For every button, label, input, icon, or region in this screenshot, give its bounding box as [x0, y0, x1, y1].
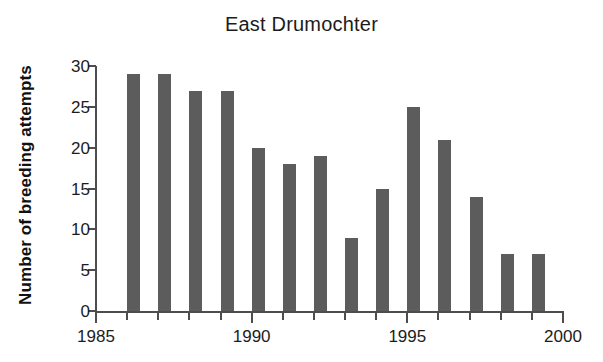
bar: [252, 148, 265, 311]
x-tick-mark-minor: [500, 313, 502, 320]
x-axis-line: [95, 311, 564, 313]
bar: [189, 91, 202, 312]
x-tick-label: 2000: [544, 327, 582, 347]
plot-area: 051015202530 1985199019952000: [96, 66, 563, 311]
x-tick-mark-major: [95, 313, 97, 323]
x-tick-mark-minor: [531, 313, 533, 320]
chart-title: East Drumochter: [0, 13, 603, 36]
x-tick-mark-minor: [188, 313, 190, 320]
x-tick-label: 1985: [77, 327, 115, 347]
y-tick-label: 30: [71, 57, 90, 77]
x-tick-mark-minor: [469, 313, 471, 320]
bar: [532, 254, 545, 311]
bar: [438, 140, 451, 312]
y-tick-label: 5: [81, 261, 90, 281]
y-tick-label: 25: [71, 98, 90, 118]
x-tick-label: 1995: [388, 327, 426, 347]
y-tick-label: 15: [71, 180, 90, 200]
bar: [314, 156, 327, 311]
x-tick-mark-major: [562, 313, 564, 323]
y-tick-label: 20: [71, 139, 90, 159]
bar: [221, 91, 234, 312]
x-tick-mark-minor: [437, 313, 439, 320]
x-tick-mark-minor: [220, 313, 222, 320]
y-tick-label: 0: [81, 302, 90, 322]
bar: [283, 164, 296, 311]
bar: [376, 189, 389, 312]
bar: [470, 197, 483, 311]
x-tick-mark-minor: [157, 313, 159, 320]
bar: [158, 74, 171, 311]
y-tick-label: 10: [71, 220, 90, 240]
x-tick-mark-minor: [375, 313, 377, 320]
bar: [407, 107, 420, 311]
x-tick-mark-major: [406, 313, 408, 323]
y-axis-title: Number of breeding attempts: [16, 65, 36, 305]
bar: [345, 238, 358, 312]
x-tick-mark-minor: [313, 313, 315, 320]
x-tick-label: 1990: [233, 327, 271, 347]
chart-figure: East Drumochter Number of breeding attem…: [0, 0, 603, 362]
y-axis-title-container: Number of breeding attempts: [13, 50, 39, 320]
x-tick-mark-minor: [344, 313, 346, 320]
x-tick-mark-major: [251, 313, 253, 323]
bar: [127, 74, 140, 311]
x-tick-mark-minor: [282, 313, 284, 320]
bar: [501, 254, 514, 311]
x-tick-mark-minor: [126, 313, 128, 320]
